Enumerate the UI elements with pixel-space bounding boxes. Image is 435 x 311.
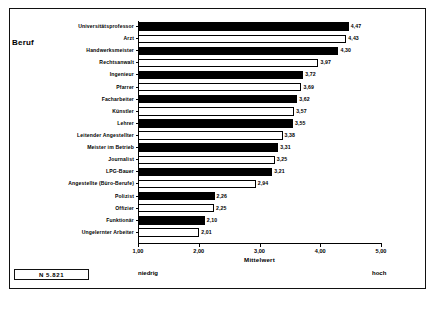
scale-low-label: niedrig (138, 270, 158, 276)
bar (138, 83, 301, 91)
bar-value-label: 2,94 (258, 178, 269, 189)
bar-category-label: Ingenieur (110, 69, 134, 80)
bar (138, 107, 294, 115)
x-tick-mark (260, 243, 261, 247)
x-tick-mark (199, 243, 200, 247)
bar-category-label: Künstler (112, 106, 134, 117)
bar (138, 156, 275, 164)
bar-category-label: Funktionär (106, 215, 134, 226)
bar (138, 228, 199, 236)
bar-row: Polizist2,26 (138, 191, 381, 203)
bar-row: Pfarrer3,69 (138, 82, 381, 94)
bar-category-label: Leitender Angestellter (77, 130, 134, 141)
plot-area: Universitätsprofessor4,47Arzt4,43Handwer… (138, 21, 381, 239)
sample-size-badge: N 5.821 (14, 269, 89, 280)
x-tick-mark (381, 243, 382, 247)
bar (138, 168, 272, 176)
bar-category-label: LPG-Bauer (106, 166, 134, 177)
scale-high-label: hoch (372, 270, 386, 276)
bar (138, 59, 318, 67)
x-tick-mark (320, 243, 321, 247)
bar-row: LPG-Bauer3,21 (138, 166, 381, 178)
bar-category-label: Journalist (108, 154, 134, 165)
bar-category-label: Rechtsanwalt (99, 57, 134, 68)
bar-row: Meister im Betrieb3,31 (138, 142, 381, 154)
bar-row: Offizier2,25 (138, 203, 381, 215)
bar-category-label: Facharbeiter (102, 94, 134, 105)
bar (138, 192, 215, 200)
x-tick-label: 5,00 (376, 248, 387, 254)
bar-value-label: 3,97 (320, 57, 331, 68)
bar-row: Funktionär2,10 (138, 215, 381, 227)
x-axis-title: Mittelwert (138, 256, 381, 263)
bar-row: Ungelernter Arbeiter2,01 (138, 227, 381, 239)
bar (138, 119, 293, 127)
bar (138, 204, 214, 212)
bar-value-label: 3,38 (285, 130, 296, 141)
bar-row: Facharbeiter3,62 (138, 94, 381, 106)
bar (138, 143, 278, 151)
bar-category-label: Angestellte (Büro-Berufe) (68, 178, 134, 189)
x-tick-label: 4,00 (315, 248, 326, 254)
bar-value-label: 4,47 (351, 21, 362, 32)
bar-value-label: 2,10 (207, 215, 218, 226)
bar-category-label: Polizist (115, 191, 134, 202)
y-axis-title: Beruf (12, 38, 34, 47)
bar-row: Handwerksmeister4,30 (138, 45, 381, 57)
bar-row: Lehrer3,55 (138, 118, 381, 130)
bar (138, 47, 338, 55)
bar-value-label: 4,43 (348, 33, 359, 44)
bar (138, 180, 256, 188)
bar (138, 35, 346, 43)
bar-value-label: 3,62 (299, 94, 310, 105)
bar-value-label: 3,55 (295, 118, 306, 129)
x-tick-mark (138, 243, 139, 247)
bar-row: Leitender Angestellter3,38 (138, 130, 381, 142)
bar-category-label: Meister im Betrieb (87, 142, 134, 153)
x-tick-label: 3,00 (254, 248, 265, 254)
bar-value-label: 3,25 (277, 154, 288, 165)
bar-row: Ingenieur3,72 (138, 69, 381, 81)
bar-value-label: 2,25 (216, 203, 227, 214)
bar-value-label: 3,69 (303, 82, 314, 93)
bar (138, 22, 349, 30)
bar-value-label: 2,26 (217, 191, 228, 202)
bar-category-label: Handwerksmeister (86, 45, 134, 56)
chart-page: Beruf Universitätsprofessor4,47Arzt4,43H… (0, 0, 435, 311)
bar (138, 95, 297, 103)
bar-row: Arzt4,43 (138, 33, 381, 45)
bar-category-label: Pfarrer (116, 82, 134, 93)
bar-row: Rechtsanwalt3,97 (138, 57, 381, 69)
bar-value-label: 3,57 (296, 106, 307, 117)
bar-value-label: 3,21 (274, 166, 285, 177)
bar-value-label: 4,30 (340, 45, 351, 56)
bar-category-label: Ungelernter Arbeiter (82, 227, 134, 238)
x-axis-ticks: 1,002,003,004,005,00 (138, 243, 381, 257)
bar (138, 216, 205, 224)
x-tick-label: 1,00 (133, 248, 144, 254)
bar-category-label: Offizier (115, 203, 134, 214)
bar-category-label: Universitätsprofessor (78, 21, 134, 32)
bar-rows: Universitätsprofessor4,47Arzt4,43Handwer… (138, 21, 381, 239)
x-tick-label: 2,00 (193, 248, 204, 254)
bar-value-label: 3,72 (305, 69, 316, 80)
bar-value-label: 2,01 (201, 227, 212, 238)
bar-value-label: 3,31 (280, 142, 291, 153)
bar-row: Angestellte (Büro-Berufe)2,94 (138, 178, 381, 190)
bar (138, 71, 303, 79)
bar-row: Journalist3,25 (138, 154, 381, 166)
bar-row: Universitätsprofessor4,47 (138, 21, 381, 33)
bar-row: Künstler3,57 (138, 106, 381, 118)
bar-category-label: Arzt (123, 33, 134, 44)
bar (138, 131, 283, 139)
bar-category-label: Lehrer (117, 118, 134, 129)
